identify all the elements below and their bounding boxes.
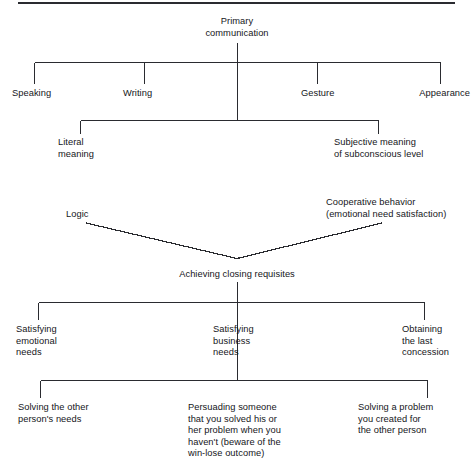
connector-lines <box>0 0 475 471</box>
node-literal-meaning: Literal meaning <box>58 137 94 160</box>
diagram-canvas: Primary communication Speaking Writing G… <box>0 0 475 471</box>
node-obtaining-last-concession: Obtaining the last concession <box>402 324 449 359</box>
node-solving-problem-you-created: Solving a problem you created for the ot… <box>358 402 433 437</box>
node-speaking: Speaking <box>12 88 51 100</box>
node-satisfying-business-needs: Satisfying business needs <box>213 324 254 359</box>
top-divider-rule <box>18 2 455 4</box>
node-gesture: Gesture <box>301 88 334 100</box>
wire-v-right-cooperative <box>237 223 382 259</box>
node-appearance: Appearance <box>419 88 470 100</box>
node-solving-other-persons-needs: Solving the other person's needs <box>18 402 89 425</box>
wire-v-left-logic <box>86 223 237 259</box>
node-persuading-someone: Persuading someone that you solved his o… <box>188 402 281 460</box>
node-writing: Writing <box>123 88 152 100</box>
node-primary-communication: Primary communication <box>205 16 268 39</box>
node-satisfying-emotional-needs: Satisfying emotional needs <box>16 324 57 359</box>
node-cooperative-behavior: Cooperative behavior (emotional need sat… <box>326 197 446 220</box>
node-subjective-meaning: Subjective meaning of subconscious level <box>334 137 423 160</box>
node-logic: Logic <box>66 209 88 221</box>
node-achieving-closing-requisites: Achieving closing requisites <box>179 269 295 281</box>
